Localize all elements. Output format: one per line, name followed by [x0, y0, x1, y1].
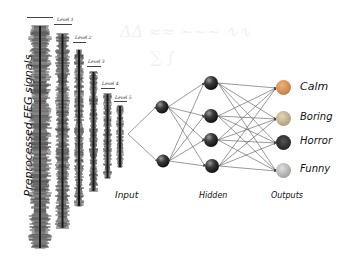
funny-emoji-icon	[276, 163, 291, 178]
input-layer-label: Input	[115, 190, 138, 200]
neural-network	[0, 0, 342, 258]
hidden-layer-label: Hidden	[199, 191, 227, 200]
output-label-boring: Boring	[300, 111, 333, 122]
boring-emoji-icon	[276, 111, 291, 126]
output-label-horror: Horror	[300, 135, 332, 146]
horror-emoji-icon	[276, 135, 291, 150]
eeg-emotion-classification-diagram: ΔΔ ≈≈ ~~~ ∿∿ ∑ ∫ Preprocessed EEG signal…	[0, 0, 342, 258]
calm-emoji-icon	[276, 80, 291, 95]
output-label-funny: Funny	[300, 163, 330, 174]
output-label-calm: Calm	[300, 80, 328, 93]
outputs-layer-label: Outputs	[271, 191, 303, 200]
